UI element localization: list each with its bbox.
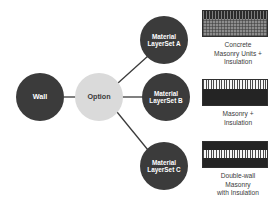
caption-line: Double-wall xyxy=(202,172,274,181)
node-option-label: Option xyxy=(85,93,112,101)
swatch-concrete-masonry-units-insulation xyxy=(202,10,268,37)
caption-line: Masonry Units + xyxy=(202,50,274,59)
swatch-band-concrete-stipple xyxy=(203,19,267,36)
node-material-layerset-b[interactable]: Material LayerSet B xyxy=(142,73,190,121)
legend-caption-masonry-insulation: Masonry + Insulation xyxy=(202,110,274,127)
legend-item-double-wall-masonry-with-insulation: Double-wall Masonry with Insulation xyxy=(202,141,274,198)
swatch-band-insulation-hatch xyxy=(203,80,267,89)
label-line: LayerSet A xyxy=(147,40,180,47)
swatch-band-masonry-solid xyxy=(203,89,267,105)
caption-line: with Insulation xyxy=(202,189,274,198)
legend-item-concrete-masonry-units-insulation: Concrete Masonry Units + Insulation xyxy=(202,10,274,67)
node-material-layerset-b-label: Material LayerSet B xyxy=(142,90,190,104)
swatch-double-wall-masonry-with-insulation xyxy=(202,141,268,168)
node-material-layerset-a[interactable]: Material LayerSet A xyxy=(140,16,188,64)
caption-line: Masonry xyxy=(202,181,274,190)
swatch-band-masonry-inner xyxy=(203,158,267,167)
caption-line: Concrete xyxy=(202,41,274,50)
node-wall[interactable]: Wall xyxy=(16,73,64,121)
label-line: Material xyxy=(152,159,176,166)
edge-option-layerset-a xyxy=(118,56,148,83)
caption-line: Masonry + xyxy=(202,110,274,119)
legend-caption-concrete-masonry-units-insulation: Concrete Masonry Units + Insulation xyxy=(202,41,274,67)
label-line: LayerSet B xyxy=(149,97,182,104)
swatch-band-insulation-cavity xyxy=(203,150,267,159)
node-material-layerset-c[interactable]: Material LayerSet C xyxy=(140,142,188,190)
swatch-masonry-insulation xyxy=(202,79,268,106)
edge-option-layerset-c xyxy=(117,112,148,150)
caption-line: Insulation xyxy=(202,119,274,128)
node-wall-label: Wall xyxy=(31,93,50,101)
node-material-layerset-c-label: Material LayerSet C xyxy=(140,159,188,173)
caption-line: Insulation xyxy=(202,58,274,67)
label-line: Material xyxy=(154,90,178,97)
legend-item-masonry-insulation: Masonry + Insulation xyxy=(202,79,274,127)
diagram-canvas: Wall Option Material LayerSet A Material… xyxy=(0,0,276,206)
label-line: LayerSet C xyxy=(147,166,180,173)
swatch-band-masonry-hatch xyxy=(203,11,267,19)
legend-caption-double-wall-masonry-with-insulation: Double-wall Masonry with Insulation xyxy=(202,172,274,198)
node-option[interactable]: Option xyxy=(75,73,123,121)
label-line: Material xyxy=(152,33,176,40)
node-material-layerset-a-label: Material LayerSet A xyxy=(140,33,188,47)
swatch-band-masonry-outer xyxy=(203,142,267,150)
